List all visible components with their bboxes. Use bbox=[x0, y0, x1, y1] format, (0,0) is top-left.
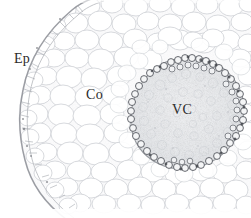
label-cortex: Co bbox=[86, 87, 103, 103]
micrograph-image: Ep Co VC bbox=[0, 0, 251, 218]
bottom-margin bbox=[0, 209, 251, 218]
label-vascular-cylinder: VC bbox=[172, 102, 192, 118]
label-epidermis: Ep bbox=[14, 51, 30, 67]
top-margin bbox=[0, 0, 251, 3]
tissue-rendering bbox=[0, 0, 251, 218]
